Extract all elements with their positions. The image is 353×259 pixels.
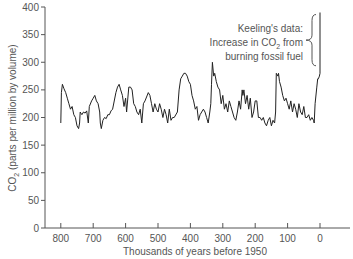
annotation-line-2: Increase in CO2 from: [210, 37, 303, 50]
y-tick-label: 100: [22, 167, 39, 178]
annotation-line-1: Keeling's data:: [238, 23, 303, 34]
y-tick-label: 150: [22, 140, 39, 151]
plot-frame: [45, 7, 350, 228]
x-tick-label: 800: [52, 233, 69, 244]
y-tick-label: 50: [28, 195, 40, 206]
y-tick-label: 350: [22, 29, 39, 40]
x-axis-ticks: 8007006005004003002001000: [52, 223, 323, 244]
keeling-bracket: [306, 15, 316, 66]
y-axis-ticks: 050100150200250300350400: [22, 2, 45, 234]
x-tick-label: 500: [150, 233, 167, 244]
y-tick-label: 400: [22, 2, 39, 13]
co2-chart: 050100150200250300350400 800700600500400…: [0, 0, 353, 259]
x-tick-label: 600: [117, 233, 134, 244]
x-tick-label: 0: [317, 233, 323, 244]
y-tick-label: 300: [22, 57, 39, 68]
keeling-annotation: Keeling's data: Increase in CO2 from bur…: [210, 23, 303, 62]
x-axis-title: Thousands of years before 1950: [123, 246, 267, 257]
annotation-line-3: burning fossil fuel: [225, 51, 303, 62]
y-tick-label: 0: [33, 223, 39, 234]
x-tick-label: 100: [279, 233, 296, 244]
y-axis-title: CO2 (parts per million by volume): [7, 44, 20, 191]
x-tick-label: 400: [182, 233, 199, 244]
x-tick-label: 300: [214, 233, 231, 244]
y-tick-label: 250: [22, 84, 39, 95]
x-tick-label: 200: [247, 233, 264, 244]
y-tick-label: 200: [22, 112, 39, 123]
x-tick-label: 700: [85, 233, 102, 244]
